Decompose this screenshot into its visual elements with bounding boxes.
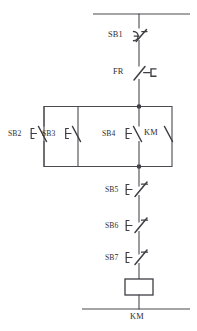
component-sb4 (126, 107, 141, 167)
figure-caption (0, 325, 197, 331)
circuit-diagram: SB1 FR SB2 SB3 SB4 KM SB5 SB6 SB7 KM (0, 0, 197, 331)
label-fr: FR (113, 67, 123, 76)
label-sb2: SB2 (8, 129, 21, 138)
component-sb5 (126, 182, 147, 197)
label-sb6: SB6 (105, 221, 118, 230)
km-aux-contact-blade (165, 127, 173, 142)
label-km-aux: KM (144, 128, 158, 137)
component-sb6 (126, 218, 147, 233)
fr-contact-blade (134, 67, 145, 81)
label-sb1: SB1 (108, 30, 123, 39)
label-sb4: SB4 (102, 129, 115, 138)
component-km-aux (165, 127, 173, 142)
sb4-contact-blade (134, 127, 142, 142)
circuit-schematic-svg (0, 0, 197, 331)
component-fr (134, 67, 156, 81)
label-sb7: SB7 (105, 253, 118, 262)
component-sb1 (134, 30, 148, 42)
label-sb5: SB5 (105, 185, 118, 194)
component-sb7 (126, 250, 147, 265)
fr-heater-hook-icon (151, 69, 156, 76)
label-km-coil: KM (130, 312, 144, 321)
km-coil-box (125, 279, 153, 295)
sb3-contact-blade (73, 127, 81, 142)
label-sb3: SB3 (42, 129, 55, 138)
